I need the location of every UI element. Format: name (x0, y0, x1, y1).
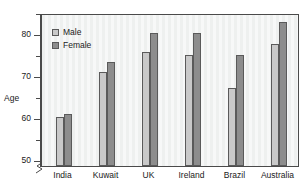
y-tick-minor (36, 56, 40, 57)
bar-india-female (64, 114, 72, 166)
bar-chart: Age 50607080 Male Female IndiaKuwaitUKIr… (0, 0, 307, 196)
y-tick-minor (36, 14, 40, 15)
legend-label-male: Male (63, 28, 81, 37)
y-tick-label-50: 50 (7, 156, 31, 165)
bar-kuwait-female (107, 62, 115, 166)
y-tick-80 (34, 35, 40, 36)
legend-swatch-female-icon (52, 42, 59, 49)
legend: Male Female (52, 27, 91, 53)
bar-australia-male (271, 44, 279, 166)
y-tick-minor (36, 98, 40, 99)
y-axis-title: Age (4, 93, 19, 103)
bar-ireland-female (193, 33, 201, 166)
y-tick-label-80: 80 (7, 30, 31, 39)
bar-australia-female (279, 22, 287, 166)
bar-uk-female (150, 33, 158, 166)
bar-ireland-male (185, 55, 193, 167)
bar-uk-male (142, 52, 150, 166)
bar-kuwait-male (99, 72, 107, 166)
bar-india-male (56, 117, 64, 166)
y-tick-70 (34, 77, 40, 78)
legend-swatch-male-icon (52, 29, 59, 36)
legend-item-female: Female (52, 40, 91, 51)
y-tick-label-60: 60 (7, 114, 31, 123)
y-tick-60 (34, 119, 40, 120)
bar-brazil-female (236, 55, 244, 166)
legend-label-female: Female (63, 41, 91, 50)
bar-brazil-male (228, 88, 236, 166)
y-tick-minor (36, 140, 40, 141)
x-axis-label-australia: Australia (248, 170, 308, 180)
y-tick-label-70: 70 (7, 72, 31, 81)
legend-item-male: Male (52, 27, 91, 38)
